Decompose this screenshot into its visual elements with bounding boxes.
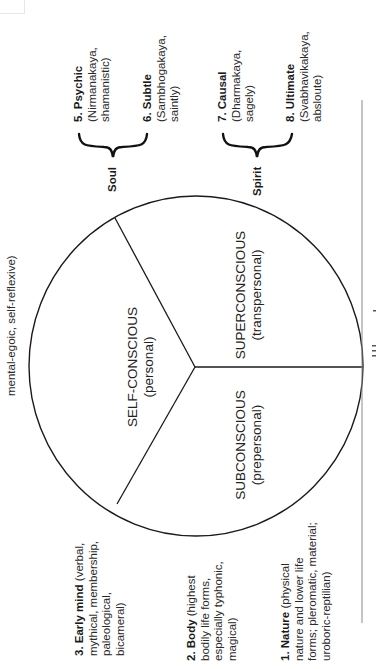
soul-label: Soul bbox=[106, 167, 118, 192]
segment-subconscious: SUBCONSCIOUS (prepersonal) bbox=[233, 380, 265, 510]
level-name: Causal bbox=[216, 71, 228, 109]
segment-title: SELF-CONSCIOUS bbox=[125, 302, 141, 432]
level-7-label: 7. Causal (Dharmakaya, sagely) bbox=[216, 50, 257, 122]
level-5-label: 5. Psychic (Nirmanakaya, shamanistic) bbox=[72, 47, 113, 122]
caption-fragment bbox=[372, 345, 376, 347]
segment-superconscious: SUPERCONSCIOUS (transpersonal) bbox=[233, 230, 265, 360]
book-page: Soul Spirit SELF-CONSCIOUS (personal) SU… bbox=[0, 0, 378, 669]
caption-fragment bbox=[373, 310, 376, 312]
level-6-label: 6. Subtle (Sambhogakaya, saintly) bbox=[141, 35, 182, 122]
level-3-label: 3. Early mind (verbal, mythical, members… bbox=[73, 541, 127, 656]
segment-subtitle: (prepersonal) bbox=[249, 380, 265, 510]
level-name: Early mind bbox=[73, 584, 85, 643]
segment-title: SUBCONSCIOUS bbox=[233, 380, 249, 510]
consciousness-circle bbox=[29, 196, 363, 536]
segment-self-conscious: SELF-CONSCIOUS (personal) bbox=[125, 302, 157, 432]
level-name: Body bbox=[185, 619, 197, 648]
soul-brace-icon bbox=[79, 134, 147, 157]
level-8-label: 8. Ultimate (Svabhavikakaya, absloute) bbox=[284, 31, 325, 122]
level-2-label: 2. Body (highest bodily life forms, espe… bbox=[185, 561, 239, 661]
segment-title: SUPERCONSCIOUS bbox=[233, 230, 249, 360]
level-name: Ultimate bbox=[284, 64, 296, 109]
level-4-label: mental-egoic, self-reflexive) bbox=[5, 255, 19, 396]
level-1-label: 1. Nature (physical nature and lower lif… bbox=[279, 522, 333, 661]
level-name: Subtle bbox=[141, 74, 153, 109]
level-name: Nature bbox=[279, 612, 291, 648]
caption-fragment bbox=[372, 350, 376, 352]
segment-subtitle: (transpersonal) bbox=[249, 230, 265, 360]
caption-fragment bbox=[372, 355, 376, 357]
level-name: Psychic bbox=[72, 66, 84, 109]
segment-subtitle: (personal) bbox=[141, 302, 157, 432]
spirit-label: Spirit bbox=[251, 167, 263, 196]
spirit-brace-icon bbox=[223, 134, 292, 157]
